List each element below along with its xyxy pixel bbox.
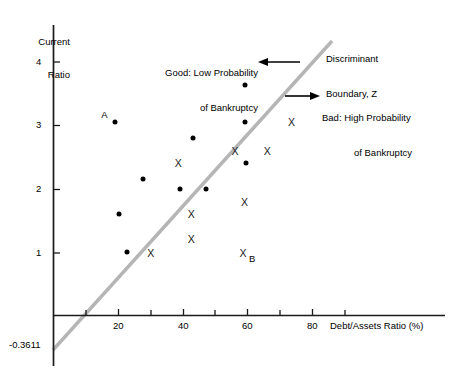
data-point-dot: [116, 211, 121, 216]
chart-figure: Current Ratio Debt/Assets Ratio (%) 4 3 …: [0, 0, 451, 378]
data-point-label: B: [249, 253, 255, 264]
data-point-x: X: [147, 248, 154, 259]
data-point-x: X: [175, 157, 182, 168]
data-point-dot: [140, 176, 145, 181]
data-point-x: X: [188, 208, 195, 219]
data-point-dot: [177, 187, 182, 192]
data-point-dot: [113, 120, 118, 125]
data-point-x: X: [239, 248, 246, 259]
data-point-dot: [244, 160, 249, 165]
data-point-x: X: [231, 146, 238, 157]
data-point-dot: [124, 249, 129, 254]
data-point-layer: AXXXXXXXXXB: [0, 0, 451, 378]
data-point-x: X: [241, 197, 248, 208]
data-point-x: X: [264, 146, 271, 157]
data-point-x: X: [288, 117, 295, 128]
data-point-x: X: [188, 234, 195, 245]
data-point-label: A: [101, 109, 107, 120]
data-point-dot: [242, 82, 247, 87]
data-point-dot: [203, 187, 208, 192]
data-point-dot: [190, 136, 195, 141]
data-point-dot: [242, 120, 247, 125]
